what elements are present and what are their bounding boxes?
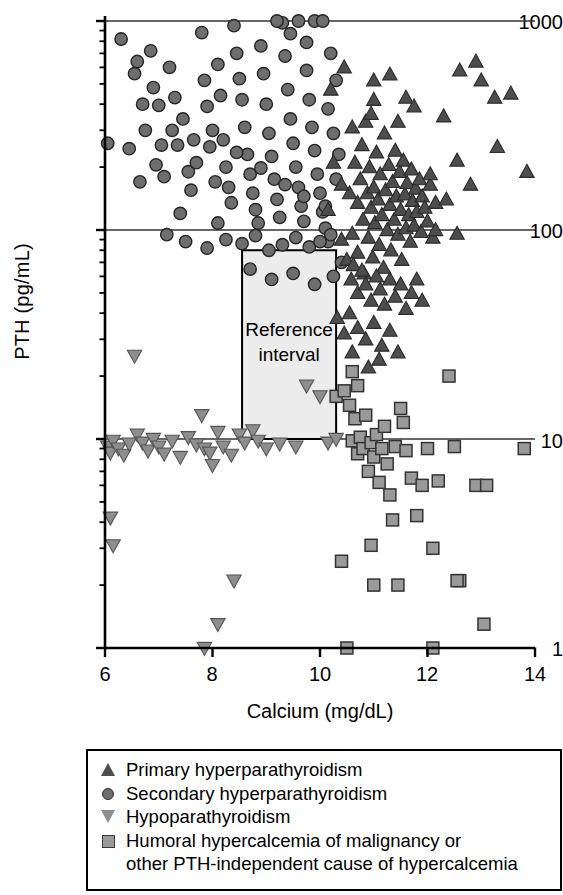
series-triangle-up xyxy=(321,54,534,373)
reference-interval-label-line1: Reference xyxy=(245,319,333,340)
legend-label: Hypoparathyroidism xyxy=(126,805,291,829)
legend-item-hypo: Hypoparathyroidism xyxy=(88,805,560,829)
legend-label: Humoral hypercalcemia of malignancy or o… xyxy=(126,829,518,876)
plot-canvas: Referenceinterval xyxy=(0,0,563,740)
legend-label: Primary hyperparathyroidism xyxy=(126,758,362,782)
legend-item-humoral: Humoral hypercalcemia of malignancy or o… xyxy=(88,829,560,876)
figure-root: { "chart_data": { "type": "scatter", "ti… xyxy=(0,0,563,895)
legend-item-primary: Primary hyperparathyroidism xyxy=(88,758,560,782)
legend: Primary hyperparathyroidism Secondary hy… xyxy=(86,749,562,891)
triangle-up-icon xyxy=(100,758,117,781)
legend-item-secondary: Secondary hyperparathyroidism xyxy=(88,782,560,806)
series-square xyxy=(330,366,530,654)
triangle-down-icon xyxy=(100,805,117,828)
legend-label: Secondary hyperparathyroidism xyxy=(126,782,387,806)
square-icon xyxy=(100,829,117,852)
circle-icon xyxy=(100,782,117,805)
series-circle xyxy=(101,15,347,291)
scatter-plot: PTH (pg/mL) 1000 100 10 1 6 8 10 12 14 C… xyxy=(0,0,563,740)
reference-interval-label-line2: interval xyxy=(258,344,319,365)
